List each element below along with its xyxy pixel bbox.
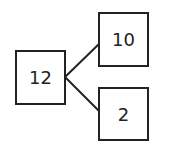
node-part-top: 10 <box>98 12 149 67</box>
connector-whole-to-bottom <box>65 77 99 111</box>
node-part-bottom: 2 <box>98 87 149 141</box>
connector-whole-to-top <box>65 44 99 77</box>
node-part-bottom-label: 2 <box>118 104 129 125</box>
number-bond-diagram: 12 10 2 <box>0 0 171 153</box>
node-whole-label: 12 <box>29 67 52 88</box>
node-whole: 12 <box>15 50 66 105</box>
node-part-top-label: 10 <box>112 29 135 50</box>
